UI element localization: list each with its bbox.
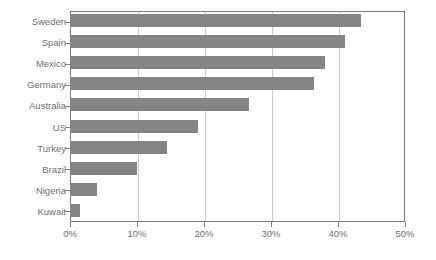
bar-row xyxy=(70,53,405,74)
value-axis: 0%10%20%30%40%50% xyxy=(70,222,405,252)
bar xyxy=(70,204,80,217)
bar xyxy=(70,98,249,111)
category-label: Turkey xyxy=(0,138,66,159)
bar-row xyxy=(70,117,405,138)
category-label: Sweden xyxy=(0,11,66,32)
category-tick xyxy=(65,190,70,191)
bar-row xyxy=(70,95,405,116)
bar xyxy=(70,14,361,27)
value-tick xyxy=(70,222,71,227)
category-tick xyxy=(65,85,70,86)
bar xyxy=(70,183,97,196)
category-tick xyxy=(65,169,70,170)
category-tick xyxy=(65,64,70,65)
value-tick-label: 30% xyxy=(261,228,280,239)
bar xyxy=(70,120,198,133)
category-label: US xyxy=(0,117,66,138)
bar xyxy=(70,141,167,154)
category-tick xyxy=(65,211,70,212)
category-tick xyxy=(65,22,70,23)
bar-row xyxy=(70,159,405,180)
value-tick xyxy=(271,222,272,227)
value-tick xyxy=(338,222,339,227)
category-label: Kuwait xyxy=(0,201,66,222)
bar-row xyxy=(70,138,405,159)
bar xyxy=(70,56,325,69)
category-label: Spain xyxy=(0,32,66,53)
bar-row xyxy=(70,11,405,32)
category-tick xyxy=(65,127,70,128)
category-axis: SwedenSpainMexicoGermanyAustraliaUSTurke… xyxy=(0,11,66,222)
value-tick xyxy=(137,222,138,227)
category-label: Mexico xyxy=(0,53,66,74)
value-tick-label: 0% xyxy=(63,228,77,239)
bar xyxy=(70,162,137,175)
category-tick xyxy=(65,148,70,149)
category-label: Australia xyxy=(0,95,66,116)
bar-row xyxy=(70,201,405,222)
value-tick xyxy=(405,222,406,227)
bar xyxy=(70,77,314,90)
category-tick xyxy=(65,106,70,107)
bar-chart: SwedenSpainMexicoGermanyAustraliaUSTurke… xyxy=(0,0,436,260)
category-label: Nigeria xyxy=(0,180,66,201)
category-label: Brazil xyxy=(0,159,66,180)
value-tick xyxy=(204,222,205,227)
category-tick xyxy=(65,43,70,44)
bar xyxy=(70,35,345,48)
category-label: Germany xyxy=(0,74,66,95)
bars-layer xyxy=(70,11,405,222)
bar-row xyxy=(70,180,405,201)
value-tick-label: 50% xyxy=(395,228,414,239)
value-tick-label: 10% xyxy=(127,228,146,239)
bar-row xyxy=(70,74,405,95)
bar-row xyxy=(70,32,405,53)
value-tick-label: 40% xyxy=(328,228,347,239)
value-tick-label: 20% xyxy=(194,228,213,239)
